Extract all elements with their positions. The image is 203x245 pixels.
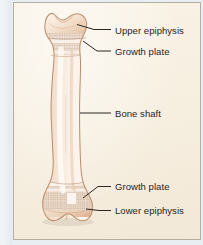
bone-diagram-figure: Upper epiphysis Growth plate Bone shaft … — [0, 0, 203, 245]
label-growth-plate-lower: Growth plate — [115, 181, 169, 192]
label-growth-plate-upper: Growth plate — [115, 46, 169, 57]
label-bone-shaft: Bone shaft — [115, 108, 161, 119]
scan-left-margin — [0, 0, 12, 245]
label-text-layer: Upper epiphysis Growth plate Bone shaft … — [14, 3, 202, 241]
label-lower-epiphysis: Lower epiphysis — [115, 205, 184, 216]
label-upper-epiphysis: Upper epiphysis — [115, 25, 184, 36]
figure-panel: Upper epiphysis Growth plate Bone shaft … — [13, 2, 201, 240]
